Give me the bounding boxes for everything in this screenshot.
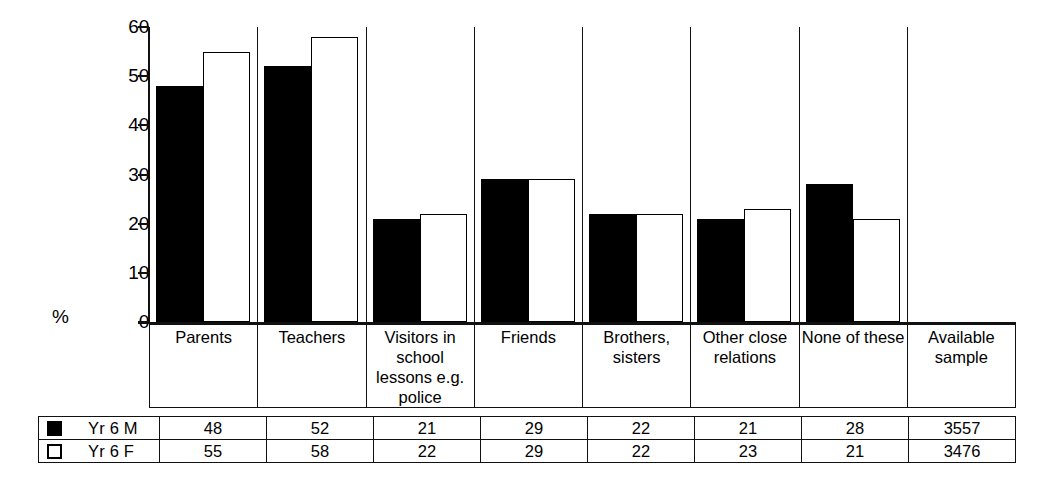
table-cell: 21 bbox=[802, 440, 909, 463]
bar-yr6f bbox=[203, 52, 250, 322]
category-label-line: relations bbox=[691, 347, 798, 367]
bar-group bbox=[257, 27, 365, 322]
category-divider-line bbox=[582, 27, 583, 322]
category-label-line: sisters bbox=[583, 347, 690, 367]
bar-yr6m bbox=[589, 214, 636, 322]
category-label-row: ParentsTeachersVisitors inschoollessons … bbox=[149, 324, 1016, 408]
category-label-line: None of these bbox=[800, 327, 907, 347]
category-label-cell: Friends bbox=[475, 324, 583, 407]
y-axis-tick: 10 bbox=[0, 272, 149, 274]
plot-area bbox=[149, 27, 1015, 322]
category-divider-line bbox=[366, 27, 367, 322]
y-axis-tick: 30 bbox=[0, 174, 149, 176]
y-axis-tick: 50 bbox=[0, 75, 149, 77]
chart-figure: 6050403020100 % ParentsTeachersVisitors … bbox=[0, 0, 1056, 493]
table-cell: 22 bbox=[588, 440, 695, 463]
y-axis-tick-mark bbox=[138, 223, 149, 225]
legend-filled-square-icon bbox=[47, 421, 62, 436]
table-row: Yr 6 M485221292221283557 bbox=[39, 417, 1016, 440]
bar-group bbox=[907, 27, 1015, 322]
legend-cell: Yr 6 M bbox=[39, 417, 160, 440]
bar-yr6f bbox=[636, 214, 683, 322]
bar-group bbox=[474, 27, 582, 322]
category-label-cell: None of these bbox=[800, 324, 908, 407]
category-label-line: school bbox=[367, 347, 474, 367]
category-divider-line bbox=[907, 27, 908, 322]
y-axis-tick: 60 bbox=[0, 26, 149, 28]
table-cell: 52 bbox=[267, 417, 374, 440]
y-axis-unit-label: % bbox=[52, 307, 69, 326]
category-label-cell: Teachers bbox=[258, 324, 366, 407]
bar-yr6m bbox=[264, 66, 311, 322]
bar-yr6m bbox=[156, 86, 203, 322]
category-label-line: Parents bbox=[150, 327, 257, 347]
category-label-line: lessons e.g. bbox=[367, 367, 474, 387]
bar-yr6f bbox=[311, 37, 358, 322]
legend-hollow-square-icon bbox=[47, 444, 62, 459]
category-label-line: Visitors in bbox=[367, 327, 474, 347]
category-label-line: Friends bbox=[475, 327, 582, 347]
data-table: Yr 6 M485221292221283557Yr 6 F5558222922… bbox=[38, 416, 1016, 463]
category-label-line: Other close bbox=[691, 327, 798, 347]
table-row: Yr 6 F555822292223213476 bbox=[39, 440, 1016, 463]
table-cell: 3476 bbox=[909, 440, 1016, 463]
y-axis-tick: 20 bbox=[0, 223, 149, 225]
y-axis-tick-mark bbox=[138, 75, 149, 77]
bar-group bbox=[582, 27, 690, 322]
category-divider-line bbox=[799, 27, 800, 322]
bar-yr6f bbox=[528, 179, 575, 322]
table-cell: 3557 bbox=[909, 417, 1016, 440]
bar-yr6f bbox=[420, 214, 467, 322]
legend-cell: Yr 6 F bbox=[39, 440, 160, 463]
table-cell: 29 bbox=[481, 440, 588, 463]
table-cell: 29 bbox=[481, 417, 588, 440]
table-cell: 48 bbox=[160, 417, 267, 440]
table-cell: 55 bbox=[160, 440, 267, 463]
category-divider-line bbox=[690, 27, 691, 322]
table-cell: 23 bbox=[695, 440, 802, 463]
category-label-cell: Availablesample bbox=[908, 324, 1015, 407]
bar-yr6m bbox=[806, 184, 853, 322]
category-divider-line bbox=[257, 27, 258, 322]
bar-group bbox=[149, 27, 257, 322]
category-label-line: Brothers, bbox=[583, 327, 690, 347]
table-cell: 58 bbox=[267, 440, 374, 463]
category-label-cell: Other closerelations bbox=[691, 324, 799, 407]
bar-yr6f bbox=[853, 219, 900, 322]
category-label-line: Available bbox=[908, 327, 1015, 347]
category-label-cell: Parents bbox=[150, 324, 258, 407]
category-label-cell: Brothers,sisters bbox=[583, 324, 691, 407]
table-cell: 21 bbox=[374, 417, 481, 440]
table-cell: 21 bbox=[695, 417, 802, 440]
legend-label: Yr 6 M bbox=[88, 419, 138, 437]
category-label-line: Teachers bbox=[258, 327, 365, 347]
category-label-cell: Visitors inschoollessons e.g.police bbox=[367, 324, 475, 407]
category-divider-line bbox=[474, 27, 475, 322]
bar-yr6f bbox=[744, 209, 791, 322]
legend-label: Yr 6 F bbox=[88, 442, 134, 460]
y-axis-tick: 40 bbox=[0, 124, 149, 126]
table-cell: 28 bbox=[802, 417, 909, 440]
bar-yr6m bbox=[697, 219, 744, 322]
y-axis-tick: 0 bbox=[0, 321, 149, 323]
y-axis-tick-mark bbox=[138, 272, 149, 274]
bar-group bbox=[799, 27, 907, 322]
y-axis-tick-mark bbox=[138, 124, 149, 126]
bar-group bbox=[366, 27, 474, 322]
y-axis-tick-mark bbox=[138, 26, 149, 28]
category-label-line: police bbox=[367, 387, 474, 407]
bar-group bbox=[690, 27, 798, 322]
category-label-line: sample bbox=[908, 347, 1015, 367]
bar-yr6m bbox=[481, 179, 528, 322]
y-axis-tick-mark bbox=[138, 174, 149, 176]
table-cell: 22 bbox=[374, 440, 481, 463]
bar-yr6m bbox=[373, 219, 420, 322]
table-cell: 22 bbox=[588, 417, 695, 440]
